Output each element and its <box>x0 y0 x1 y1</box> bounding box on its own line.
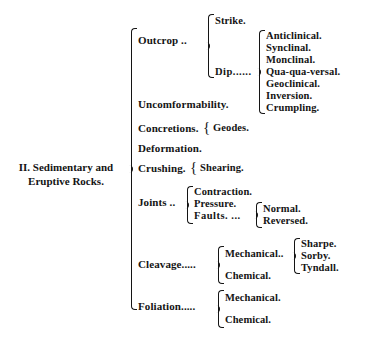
node-monclinal: Monclinal. <box>266 54 315 66</box>
node-contraction: Contraction. <box>194 186 252 198</box>
node-quaquaversal: Qua-qua-versal. <box>266 66 340 78</box>
node-deformation: Deformation. <box>138 142 202 154</box>
classification-chart: II. Sedimentary and Eruptive Rocks. Outc… <box>0 0 369 344</box>
brace-cleavage-mechanical <box>291 238 298 274</box>
root-label: II. Sedimentary and Eruptive Rocks. <box>6 160 126 188</box>
node-concretions: Concretions. <box>138 122 199 134</box>
node-pressure: Pressure. <box>194 198 236 210</box>
node-tyndall: Tyndall. <box>301 262 339 274</box>
node-dip: Dip...... <box>215 66 252 78</box>
node-sorby: Sorby. <box>301 250 331 262</box>
node-anticlinical: Anticlinical. <box>266 30 322 42</box>
node-uncomformability: Uncomformability. <box>138 98 229 110</box>
node-foliation-mechanical: Mechanical. <box>225 292 281 304</box>
node-outcrop: Outcrop .. <box>138 34 187 46</box>
brace-concretions: { <box>203 120 210 135</box>
node-cleavage: Cleavage..... <box>138 258 196 270</box>
brace-faults <box>253 202 260 228</box>
node-inversion: Inversion. <box>266 90 312 102</box>
node-foliation: Foliation..... <box>138 300 195 312</box>
node-normal: Normal. <box>263 203 301 215</box>
node-shearing: Shearing. <box>200 162 244 174</box>
brace-crushing: { <box>190 160 197 175</box>
node-cleavage-chemical: Chemical. <box>225 270 271 282</box>
node-synclinal: Synclinal. <box>266 42 311 54</box>
node-cleavage-mechanical: Mechanical.. <box>225 248 283 260</box>
node-geoclinical: Geoclinical. <box>266 78 320 90</box>
brace-foliation <box>215 290 222 328</box>
node-joints: Joints .. <box>138 196 175 208</box>
node-strike: Strike. <box>215 15 246 27</box>
brace-outcrop <box>205 14 212 78</box>
brace-cleavage <box>215 246 222 284</box>
node-faults: Faults. ... <box>194 210 241 222</box>
brace-joints <box>184 186 191 224</box>
node-reversed: Reversed. <box>263 215 308 227</box>
node-crushing: Crushing. <box>138 162 186 174</box>
node-foliation-chemical: Chemical. <box>225 314 271 326</box>
brace-root <box>128 28 135 310</box>
brace-dip <box>256 30 263 114</box>
node-crumpling: Crumpling. <box>266 102 319 114</box>
node-geodes: Geodes. <box>213 122 249 134</box>
node-sharpe: Sharpe. <box>301 238 336 250</box>
